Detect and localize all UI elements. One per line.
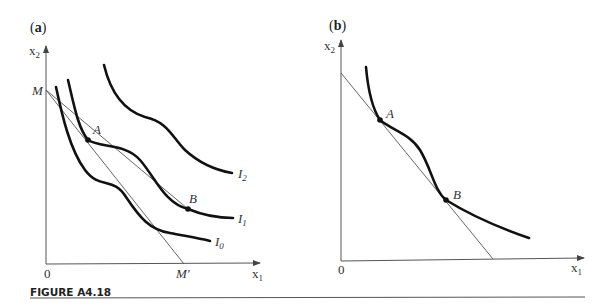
figure-caption: FIGURE A4.18 <box>30 286 111 298</box>
x-axis-label: x1 <box>571 260 582 277</box>
panel-b: (b) x2 x1 0 A B <box>324 18 584 277</box>
panel-b-label: (b) <box>329 18 346 34</box>
point-b <box>185 206 191 212</box>
budget-line <box>341 73 493 259</box>
budget-line-mm-prime <box>46 90 184 264</box>
figure-a4-18: (a) x2 x1 0 M M′ A B I2 I1 I0 (b) x2 x1 … <box>0 0 609 304</box>
indifference-curve-i2 <box>104 65 232 173</box>
y-axis-label: x2 <box>324 38 335 55</box>
curve-label-i0: I0 <box>214 234 224 251</box>
y-axis-label: x2 <box>29 43 40 60</box>
caption-rule <box>30 297 585 298</box>
intercept-m-label: M <box>31 83 44 98</box>
budget-line-mb <box>46 90 188 209</box>
panel-a-label: (a) <box>30 20 47 36</box>
point-b-label: B <box>189 191 197 206</box>
origin-label: 0 <box>44 266 51 281</box>
panel-a: (a) x2 x1 0 M M′ A B I2 I1 I0 <box>29 20 263 283</box>
x-axis-label: x1 <box>252 266 263 283</box>
point-a-label: A <box>92 122 101 137</box>
x-axis <box>46 263 260 264</box>
point-a <box>377 117 383 123</box>
point-a-label: A <box>385 106 394 121</box>
point-a <box>85 137 91 143</box>
origin-label: 0 <box>338 262 345 277</box>
curve-label-i2: I2 <box>237 166 247 183</box>
intercept-m-prime-label: M′ <box>175 266 190 281</box>
indifference-curve <box>366 67 529 238</box>
x-axis <box>341 258 584 261</box>
curve-label-i1: I1 <box>237 211 247 228</box>
point-b-label: B <box>453 187 461 202</box>
point-b <box>443 197 449 203</box>
